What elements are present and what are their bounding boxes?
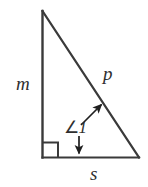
triangle-outline [43, 11, 140, 158]
geometry-figure: m p s ∠1 [0, 0, 148, 187]
angle-label-1: ∠1 [64, 119, 87, 136]
side-label-p: p [103, 64, 113, 83]
angle-number: 1 [79, 118, 87, 137]
side-label-m: m [16, 74, 30, 93]
right-angle-square [44, 143, 59, 158]
side-label-s: s [90, 164, 97, 183]
side-p-line [43, 11, 140, 158]
angle-symbol-icon: ∠ [64, 118, 79, 137]
